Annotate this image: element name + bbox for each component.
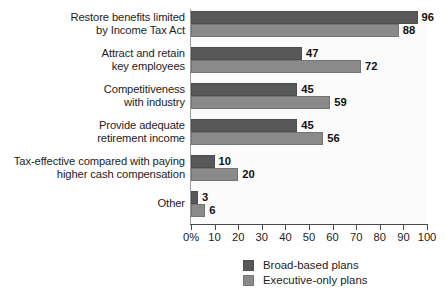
bar bbox=[191, 60, 361, 73]
x-tick-mark bbox=[380, 225, 381, 230]
x-tick-mark bbox=[262, 225, 263, 230]
legend-label: Executive-only plans bbox=[263, 274, 367, 287]
category-label: Restore benefits limitedby Income Tax Ac… bbox=[0, 11, 185, 37]
bar-value-label: 45 bbox=[301, 119, 313, 132]
bar-value-label: 72 bbox=[365, 60, 377, 73]
legend-item: Executive-only plans bbox=[243, 273, 367, 288]
bar-value-label: 96 bbox=[422, 11, 434, 24]
legend-swatch-icon bbox=[243, 260, 254, 271]
bar-value-label: 20 bbox=[242, 168, 254, 181]
bar bbox=[191, 47, 302, 60]
x-tick-mark bbox=[356, 225, 357, 230]
bar bbox=[191, 83, 297, 96]
bar-value-label: 88 bbox=[403, 24, 415, 37]
bar bbox=[191, 24, 399, 37]
x-tick-mark bbox=[238, 225, 239, 230]
bar bbox=[191, 155, 215, 168]
category-label-line: with industry bbox=[0, 96, 185, 109]
bar-value-label: 47 bbox=[306, 47, 318, 60]
category-label: Competitivenesswith industry bbox=[0, 83, 185, 109]
legend-swatch-icon bbox=[243, 275, 254, 286]
bar-chart: Restore benefits limitedby Income Tax Ac… bbox=[0, 0, 445, 288]
bar-value-label: 10 bbox=[219, 155, 231, 168]
x-tick-mark bbox=[403, 225, 404, 230]
category-label-line: Other bbox=[0, 197, 185, 210]
plot-area bbox=[191, 9, 427, 224]
bar-value-label: 45 bbox=[301, 83, 313, 96]
legend-item: Broad-based plans bbox=[243, 258, 367, 273]
x-tick-mark bbox=[215, 225, 216, 230]
x-tick-mark bbox=[309, 225, 310, 230]
category-label-line: Competitiveness bbox=[0, 83, 185, 96]
x-tick-mark bbox=[285, 225, 286, 230]
bar bbox=[191, 191, 198, 204]
category-label-line: Tax-effective compared with paying bbox=[0, 155, 185, 168]
category-label-line: retirement income bbox=[0, 132, 185, 145]
x-tick-mark bbox=[427, 225, 428, 230]
category-label: Other bbox=[0, 197, 185, 210]
category-label: Attract and retainkey employees bbox=[0, 47, 185, 73]
category-label-line: Attract and retain bbox=[0, 47, 185, 60]
category-label-line: key employees bbox=[0, 60, 185, 73]
bar bbox=[191, 11, 418, 24]
x-tick-mark bbox=[333, 225, 334, 230]
bar bbox=[191, 204, 205, 217]
x-tick-label: 100 bbox=[412, 231, 442, 244]
legend-label: Broad-based plans bbox=[263, 259, 359, 272]
bar bbox=[191, 119, 297, 132]
bar bbox=[191, 132, 323, 145]
category-label-line: Restore benefits limited bbox=[0, 11, 185, 24]
chart-legend: Broad-based plansExecutive-only plans bbox=[243, 258, 367, 288]
category-label-line: higher cash compensation bbox=[0, 168, 185, 181]
category-label: Tax-effective compared with payinghigher… bbox=[0, 155, 185, 181]
bar-value-label: 56 bbox=[327, 132, 339, 145]
bar bbox=[191, 96, 330, 109]
bar-value-label: 6 bbox=[209, 204, 215, 217]
bar bbox=[191, 168, 238, 181]
bar-value-label: 3 bbox=[202, 191, 208, 204]
category-label-line: Provide adequate bbox=[0, 119, 185, 132]
bar-value-label: 59 bbox=[334, 96, 346, 109]
category-label-line: by Income Tax Act bbox=[0, 24, 185, 37]
category-label: Provide adequateretirement income bbox=[0, 119, 185, 145]
x-tick-mark bbox=[191, 225, 192, 230]
